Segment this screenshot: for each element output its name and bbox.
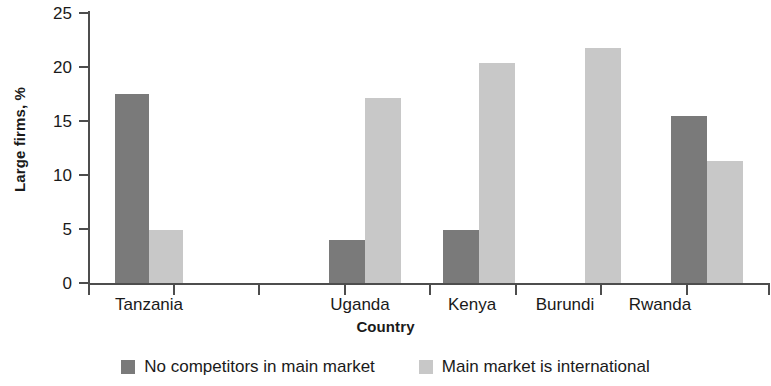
bar-tanzania-no-competitors: [115, 94, 149, 283]
y-tick-mark: [79, 282, 88, 284]
y-tick-label-20: 20: [0, 59, 72, 76]
x-tick-mark: [429, 285, 431, 295]
x-tick-mark: [768, 285, 770, 295]
x-tick-mark: [515, 285, 517, 295]
x-tick-mark: [258, 285, 260, 295]
y-tick-mark: [79, 12, 88, 14]
bar-rwanda-no-competitors: [671, 116, 707, 283]
y-tick-label-text: 15: [0, 113, 72, 130]
bar-chart: Large firms, % 25 20 15 10 5 0: [0, 0, 771, 386]
x-tick-label-tanzania: Tanzania: [69, 296, 229, 315]
x-tick-label-uganda: Uganda: [300, 296, 420, 315]
y-tick-mark: [79, 228, 88, 230]
y-tick-label-0: 0: [0, 275, 72, 292]
x-tick-mark: [344, 285, 346, 295]
y-tick-label-15: 15: [0, 113, 72, 130]
bar-kenya-no-competitors: [443, 230, 479, 283]
y-tick-label-text: 5: [0, 221, 72, 238]
legend-swatch-dark-icon: [121, 360, 135, 374]
legend-item-no-competitors: No competitors in main market: [121, 358, 375, 375]
bar-rwanda-international: [707, 161, 743, 283]
y-tick-mark: [79, 120, 88, 122]
x-tick-label-rwanda: Rwanda: [590, 296, 730, 315]
x-axis-title: Country: [0, 318, 771, 335]
y-tick-mark: [79, 66, 88, 68]
y-tick-label-text: 10: [0, 167, 72, 184]
y-tick-label-text: 20: [0, 59, 72, 76]
y-tick-label-10: 10: [0, 167, 72, 184]
y-tick-label-25: 25: [0, 5, 72, 22]
bar-tanzania-international: [149, 230, 183, 283]
bar-burundi-international: [585, 48, 621, 283]
bar-kenya-international: [479, 63, 515, 283]
x-tick-mark: [600, 285, 602, 295]
legend-swatch-light-icon: [419, 360, 433, 374]
bar-uganda-international: [365, 98, 401, 283]
x-tick-mark: [686, 285, 688, 295]
y-tick-label-text: 25: [0, 5, 72, 22]
legend-item-international: Main market is international: [419, 358, 650, 375]
chart-legend: No competitors in main market Main marke…: [0, 358, 771, 375]
y-tick-mark: [79, 174, 88, 176]
legend-label-international: Main market is international: [442, 358, 650, 375]
y-tick-label-text: 0: [0, 275, 72, 292]
x-tick-mark: [88, 285, 90, 295]
y-tick-label-5: 5: [0, 221, 72, 238]
x-tick-mark: [173, 285, 175, 295]
plot-area: [88, 13, 770, 283]
bar-uganda-no-competitors: [329, 240, 365, 283]
legend-label-no-competitors: No competitors in main market: [144, 358, 375, 375]
